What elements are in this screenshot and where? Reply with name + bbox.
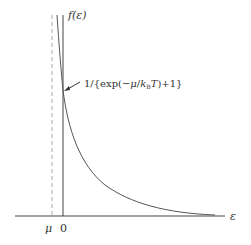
mu-label: μ xyxy=(45,222,52,235)
distribution-curve xyxy=(57,15,215,215)
y-axis-label: f(ε) xyxy=(67,9,87,22)
arrow-head-icon xyxy=(64,86,70,91)
origin-label: 0 xyxy=(60,222,67,235)
annotation-label: 1/{exp(−μ/kBT)+1} xyxy=(84,78,182,90)
distribution-diagram: f(ε) 1/{exp(−μ/kBT)+1} ε μ 0 xyxy=(0,0,251,245)
x-axis-label: ε xyxy=(230,210,236,223)
